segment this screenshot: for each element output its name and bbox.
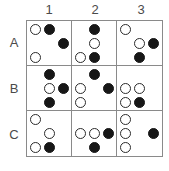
filled-circle-icon bbox=[103, 83, 114, 94]
open-circle-icon bbox=[44, 128, 55, 139]
open-circle-icon bbox=[89, 128, 100, 139]
column-header-3: 3 bbox=[118, 2, 164, 18]
filled-circle-icon bbox=[44, 69, 55, 80]
matrix-cell-a2[interactable] bbox=[72, 21, 117, 66]
open-circle-icon bbox=[134, 38, 145, 49]
filled-circle-icon bbox=[89, 52, 100, 63]
matrix-cell-c1[interactable] bbox=[27, 111, 72, 156]
filled-circle-icon bbox=[44, 142, 55, 153]
open-circle-icon bbox=[75, 128, 86, 139]
open-circle-icon bbox=[30, 24, 41, 35]
filled-circle-icon bbox=[134, 52, 145, 63]
open-circle-icon bbox=[120, 142, 131, 153]
row-header-b: B bbox=[4, 66, 24, 112]
filled-circle-icon bbox=[103, 128, 114, 139]
filled-circle-icon bbox=[89, 24, 100, 35]
row-header-a: A bbox=[4, 20, 24, 66]
open-circle-icon bbox=[30, 52, 41, 63]
matrix-cell-b3[interactable] bbox=[117, 66, 162, 111]
open-circle-icon bbox=[30, 142, 41, 153]
open-circle-icon bbox=[44, 83, 55, 94]
filled-circle-icon bbox=[58, 38, 69, 49]
matrix-cell-a1[interactable] bbox=[27, 21, 72, 66]
open-circle-icon bbox=[75, 97, 86, 108]
open-circle-icon bbox=[75, 83, 86, 94]
matrix-grid bbox=[26, 20, 163, 157]
matrix-figure: 1 2 3 A B C bbox=[0, 0, 169, 171]
column-header-1: 1 bbox=[26, 2, 72, 18]
open-circle-icon bbox=[75, 52, 86, 63]
row-header-c: C bbox=[4, 112, 24, 158]
filled-circle-icon bbox=[148, 38, 159, 49]
filled-circle-icon bbox=[44, 97, 55, 108]
matrix-cell-c2[interactable] bbox=[72, 111, 117, 156]
open-circle-icon bbox=[89, 38, 100, 49]
open-circle-icon bbox=[30, 114, 41, 125]
open-circle-icon bbox=[120, 114, 131, 125]
open-circle-icon bbox=[120, 24, 131, 35]
filled-circle-icon bbox=[148, 128, 159, 139]
filled-circle-icon bbox=[89, 69, 100, 80]
matrix-cell-c3[interactable] bbox=[117, 111, 162, 156]
open-circle-icon bbox=[120, 83, 131, 94]
filled-circle-icon bbox=[89, 142, 100, 153]
open-circle-icon bbox=[120, 97, 131, 108]
filled-circle-icon bbox=[58, 83, 69, 94]
open-circle-icon bbox=[134, 83, 145, 94]
filled-circle-icon bbox=[134, 97, 145, 108]
column-header-2: 2 bbox=[72, 2, 118, 18]
matrix-cell-a3[interactable] bbox=[117, 21, 162, 66]
open-circle-icon bbox=[120, 128, 131, 139]
matrix-cell-b1[interactable] bbox=[27, 66, 72, 111]
matrix-cell-b2[interactable] bbox=[72, 66, 117, 111]
filled-circle-icon bbox=[44, 24, 55, 35]
